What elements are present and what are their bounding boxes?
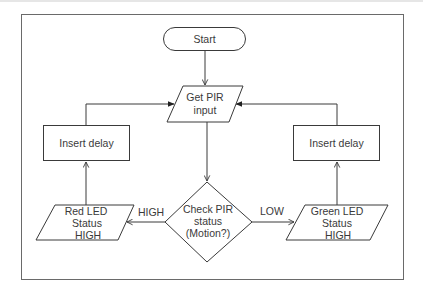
red-led-line1: Red LED <box>65 205 108 217</box>
red-led-line3: HIGH <box>75 229 101 241</box>
node-green-led-status: Green LED Status HIGH <box>286 205 388 241</box>
green-led-line2: Status <box>322 217 352 229</box>
node-insert-delay-left: Insert delay <box>44 126 130 161</box>
delay-left-label: Insert delay <box>59 137 114 149</box>
check-line2: status <box>194 215 222 227</box>
node-get-pir-input: Get PIR input <box>167 86 243 122</box>
delay-right-label: Insert delay <box>309 137 364 149</box>
node-red-led-status: Red LED Status HIGH <box>36 205 134 241</box>
check-line1: Check PIR <box>183 203 234 215</box>
check-line3: (Motion?) <box>186 227 230 239</box>
red-led-line2: Status <box>72 217 102 229</box>
node-start: Start <box>164 28 246 51</box>
edge-delay-left-to-get-pir <box>86 104 174 125</box>
edge-delay-right-to-get-pir <box>236 104 337 125</box>
flowchart-canvas: Start Get PIR input Insert delay Insert … <box>0 0 423 294</box>
green-led-line3: HIGH <box>325 229 351 241</box>
green-led-line1: Green LED <box>311 205 364 217</box>
get-pir-line1: Get PIR <box>186 91 224 103</box>
edge-label-high: HIGH <box>138 206 164 218</box>
start-label: Start <box>193 33 215 45</box>
get-pir-line2: input <box>194 104 217 116</box>
edge-label-low: LOW <box>260 205 284 217</box>
node-check-pir-status: Check PIR status (Motion?) <box>165 182 252 262</box>
node-insert-delay-right: Insert delay <box>294 126 380 161</box>
